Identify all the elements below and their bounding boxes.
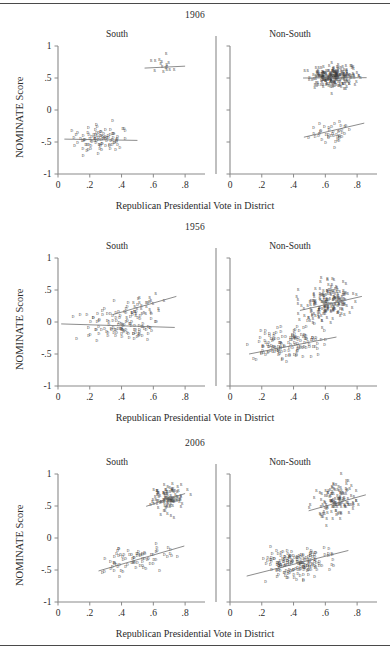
data-point-d: D: [96, 125, 99, 129]
data-point-d: D: [296, 325, 299, 329]
data-point-d: D: [147, 557, 150, 561]
data-point-r: R: [169, 68, 172, 72]
data-point-r: R: [150, 59, 153, 63]
data-point-d: D: [124, 565, 127, 569]
data-point-d: D: [132, 561, 135, 565]
data-point-d: D: [295, 354, 298, 358]
data-point-d: D: [341, 128, 344, 132]
data-point-d: D: [332, 558, 335, 562]
data-point-d: D: [100, 328, 103, 332]
data-point-d: D: [111, 119, 114, 123]
data-point-r: R: [325, 524, 328, 528]
data-point-r: R: [297, 302, 300, 306]
data-point-d: D: [258, 340, 261, 344]
data-point-d: D: [152, 562, 155, 566]
data-point-d: D: [106, 334, 109, 338]
data-point-d: D: [272, 334, 275, 338]
y-tick-label: 0: [47, 105, 52, 115]
data-point-d: D: [281, 358, 284, 362]
data-point-d: D: [295, 578, 298, 582]
data-point-r: R: [326, 511, 329, 515]
data-point-d: D: [123, 553, 126, 557]
x-tick-label: .4: [118, 608, 125, 618]
data-point-d: D: [279, 341, 282, 345]
x-tick-label: .8: [182, 180, 189, 190]
x-tick-label: 0: [56, 180, 61, 190]
data-point-d: D: [271, 552, 274, 556]
panel-group-1956: 1956 South Non-South 1.50-.5-10.2.4.6.8D…: [0, 222, 390, 428]
data-point-d: D: [167, 546, 170, 550]
data-point-d: D: [348, 128, 351, 132]
data-point-d: D: [81, 147, 84, 151]
data-point-d: D: [264, 580, 267, 584]
y-tick-label: -.5: [41, 137, 52, 147]
data-point-d: D: [108, 143, 111, 147]
data-point-d: D: [115, 552, 118, 556]
x-axis-label: Republican Presidential Vote in District: [0, 200, 390, 211]
data-point-d: D: [136, 561, 139, 565]
data-point-d: D: [129, 315, 132, 319]
data-point-d: D: [113, 561, 116, 565]
data-point-d: D: [299, 339, 302, 343]
data-point-d: D: [114, 148, 117, 152]
data-point-d: D: [116, 143, 119, 147]
data-point-d: D: [132, 332, 135, 336]
data-point-d: D: [284, 571, 287, 575]
data-point-d: D: [331, 563, 334, 567]
x-tick-label: 0: [228, 392, 233, 402]
data-point-d: D: [92, 316, 95, 320]
y-tick-label: .5: [44, 501, 51, 511]
data-point-d: D: [134, 566, 137, 570]
data-point-r: R: [355, 80, 358, 84]
data-point-d: D: [310, 355, 313, 359]
x-tick-label: 0: [228, 608, 233, 618]
data-point-r: R: [186, 488, 189, 492]
data-point-r: R: [350, 484, 353, 488]
x-tick-label: .8: [354, 180, 361, 190]
data-point-d: D: [255, 358, 258, 362]
y-tick-label: 1: [47, 41, 52, 51]
data-point-d: D: [323, 546, 326, 550]
x-tick-label: 0: [228, 180, 233, 190]
data-point-d: D: [264, 332, 267, 336]
data-point-d: D: [313, 564, 316, 568]
data-point-d: D: [312, 126, 315, 130]
data-point-r: R: [332, 492, 335, 496]
data-point-r: R: [348, 311, 351, 315]
data-point-r: R: [157, 506, 160, 510]
data-point-d: D: [125, 307, 128, 311]
data-point-d: D: [104, 557, 107, 561]
data-point-d: D: [343, 132, 346, 136]
data-point-d: D: [100, 148, 103, 152]
x-tick-label: .6: [150, 608, 157, 618]
data-point-d: D: [127, 301, 130, 305]
x-tick-label: .2: [258, 180, 265, 190]
data-point-d: D: [119, 314, 122, 318]
x-tick-label: .6: [322, 180, 329, 190]
data-point-d: D: [302, 578, 305, 582]
data-point-d: D: [87, 148, 90, 152]
data-point-d: D: [144, 552, 147, 556]
data-point-d: D: [76, 131, 79, 135]
data-point-d: D: [313, 575, 316, 579]
data-point-d: D: [87, 326, 90, 330]
data-point-d: D: [120, 335, 123, 339]
data-point-d: D: [285, 576, 288, 580]
x-tick-label: .8: [182, 392, 189, 402]
y-axis-label: NOMINATE Score: [14, 505, 25, 586]
x-tick-label: .2: [86, 608, 93, 618]
data-point-d: D: [300, 333, 303, 337]
data-point-r: R: [357, 503, 360, 507]
data-point-d: D: [316, 347, 319, 351]
data-point-d: D: [111, 143, 114, 147]
data-point-r: R: [331, 92, 334, 96]
data-point-d: D: [110, 328, 113, 332]
data-point-d: D: [279, 330, 282, 334]
data-point-d: D: [79, 313, 82, 317]
data-point-d: D: [95, 141, 98, 145]
data-point-d: D: [276, 575, 279, 579]
y-tick-label: .5: [44, 73, 51, 83]
x-tick-label: .2: [258, 608, 265, 618]
data-point-d: D: [155, 542, 158, 546]
data-point-r: R: [319, 280, 322, 284]
